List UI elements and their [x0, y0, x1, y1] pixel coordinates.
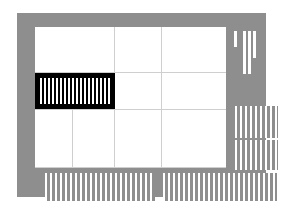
black-panel-slats [40, 78, 110, 104]
grid-hline-3 [35, 167, 226, 168]
grid-hline-2 [35, 109, 226, 110]
bar-tall-3-icon [253, 31, 256, 58]
bar-tall-2-icon [248, 31, 251, 74]
grid-vline-3 [72, 109, 73, 168]
black-louvre-panel[interactable] [35, 73, 115, 109]
design-board: セッケイをたのむ デザイナーズマンション [17, 13, 266, 197]
right-lower-slat-block[interactable] [235, 140, 278, 170]
grid-vline-2 [161, 27, 162, 168]
bottom-left-slat-block[interactable] [45, 173, 155, 201]
bottom-right-slat-block[interactable] [163, 173, 277, 201]
caption-line-1: セッケイをたのむ [275, 27, 280, 85]
bar-short-icon [234, 31, 237, 47]
vertical-caption: セッケイをたのむ デザイナーズマンション [258, 27, 280, 85]
artboard-canvas: セッケイをたのむ デザイナーズマンション [0, 0, 281, 211]
bar-tall-1-icon [243, 31, 246, 74]
right-upper-slat-block[interactable] [235, 106, 278, 138]
